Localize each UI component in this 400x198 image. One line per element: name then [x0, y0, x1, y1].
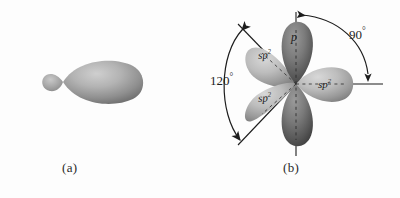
angle-120-label: 120°	[210, 72, 233, 89]
orbital-figure	[0, 0, 400, 198]
sp2-upper-left-label: sp2	[258, 49, 272, 62]
hybrid-orbital-a	[42, 61, 143, 104]
degree-symbol: °	[362, 26, 366, 36]
panel-a	[42, 61, 143, 104]
sp2-superscript: 2	[267, 48, 271, 55]
caption-panel-a: (a)	[62, 160, 77, 176]
sp2-right-label: sp2	[318, 78, 331, 90]
angle-90-arrow-left	[297, 11, 307, 19]
p-orbital-label: p	[291, 31, 297, 43]
angle-90-arrow-down	[364, 74, 371, 83]
sp2-superscript: 2	[267, 91, 271, 98]
caption-panel-b: (b)	[283, 160, 299, 176]
sp2-lower-left-label: sp2	[258, 92, 272, 104]
sp2-superscript: 2	[328, 77, 331, 84]
hybrid-orbital-large-lobe	[63, 61, 143, 104]
angle-90-label: 90°	[349, 26, 366, 43]
hybrid-orbital-small-lobe	[42, 74, 63, 91]
degree-symbol: °	[230, 72, 234, 82]
